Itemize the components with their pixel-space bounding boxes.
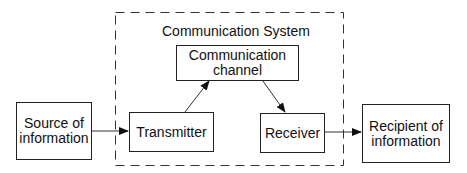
node-recipient: Recipient of information: [362, 104, 450, 163]
receiver-label: Receiver: [265, 126, 320, 141]
recipient-label-line2: information: [369, 134, 443, 149]
edge-channel-receiver: [263, 81, 285, 112]
source-label-line1: Source of: [19, 116, 88, 131]
node-channel: Communication channel: [176, 45, 299, 81]
node-transmitter: Transmitter: [129, 112, 214, 152]
source-label-line2: information: [19, 131, 88, 146]
node-receiver: Receiver: [260, 113, 325, 153]
system-title: Communication System: [162, 23, 310, 39]
edge-transmitter-channel: [185, 81, 209, 112]
recipient-label-line1: Recipient of: [369, 119, 443, 134]
transmitter-label: Transmitter: [136, 125, 206, 140]
channel-label-line2: channel: [189, 63, 286, 78]
node-source: Source of information: [16, 102, 92, 160]
channel-label-line1: Communication: [189, 48, 286, 63]
